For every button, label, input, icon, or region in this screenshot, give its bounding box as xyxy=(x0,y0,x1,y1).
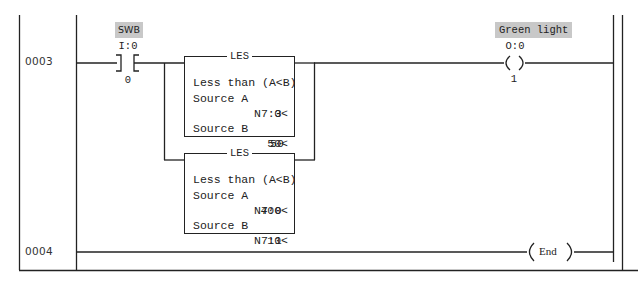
end-right-arc xyxy=(567,243,572,261)
les-block-2-source-b-value: 10< xyxy=(267,233,288,248)
les-block-1[interactable]: LES Less than (A<B) Source A N7:3 0< Sou… xyxy=(184,56,295,137)
xic-contact[interactable] xyxy=(114,53,142,73)
coil-bit: 1 xyxy=(506,73,522,85)
les-block-2[interactable]: LES Less than (A<B) Source A N7:0 400< S… xyxy=(184,153,295,234)
coil-symbol-label: Green light xyxy=(495,22,572,38)
contact-symbol-label: SWB xyxy=(115,22,143,38)
ladder-diagram: 0003 0004 SWB I:0 0 LES Less than (A<B) … xyxy=(0,0,639,283)
coil-address: O:0 xyxy=(500,40,530,52)
contact-bit: 0 xyxy=(120,74,136,86)
rung-number-0004[interactable]: 0004 xyxy=(25,245,53,257)
ote-coil[interactable] xyxy=(502,54,528,72)
end-instruction[interactable]: End xyxy=(539,245,557,257)
contact-address: I:0 xyxy=(113,40,143,52)
ladder-wires xyxy=(0,0,639,283)
rung-number-0003[interactable]: 0003 xyxy=(25,55,53,67)
end-left-arc xyxy=(530,243,535,261)
